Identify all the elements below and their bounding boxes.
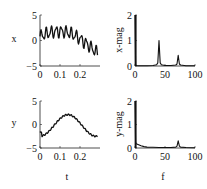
x-tick-label: 100 (188, 151, 203, 162)
y-time-panel: −50500.10.2 (26, 96, 100, 163)
y-spectrum-ylabel: y-mag (113, 111, 124, 137)
y-tick-label: 0 (32, 119, 37, 130)
x-time-panel: −50500.10.2 (26, 10, 100, 81)
y-tick-label: −5 (26, 143, 37, 154)
data-series (135, 15, 195, 66)
x-tick-label: 0.1 (54, 151, 67, 162)
x-tick-label: 0.1 (54, 69, 67, 80)
x-tick-label: 50 (160, 151, 170, 162)
y-tick-label: 2 (127, 10, 132, 21)
x-tick-label: 50 (160, 69, 170, 80)
y-tick-label: 5 (32, 10, 37, 21)
figure: −50500.10.2 012050100 −50500.10.2 012050… (0, 0, 207, 189)
x-time-ylabel: x (12, 33, 17, 44)
axes (135, 15, 195, 66)
y-tick-label: −5 (26, 61, 37, 72)
x-tick-label: 0.2 (74, 69, 87, 80)
y-tick-label: 0 (127, 61, 132, 72)
y-spectrum-xlabel: f (161, 171, 165, 182)
axes (40, 101, 100, 148)
y-tick-label: 0 (127, 143, 132, 154)
y-tick-label: 2 (127, 96, 132, 107)
x-tick-label: 0 (38, 69, 43, 80)
x-spectrum-ylabel: x-mag (113, 27, 124, 53)
x-tick-label: 0.2 (74, 151, 87, 162)
x-tick-label: 0 (38, 151, 43, 162)
y-time-ylabel: y (12, 117, 17, 128)
y-tick-label: 5 (32, 96, 37, 107)
y-tick-label: 0 (32, 35, 37, 46)
y-time-xlabel: t (66, 171, 69, 182)
y-tick-label: 1 (127, 119, 132, 130)
y-spectrum-panel: 012050100 (127, 96, 203, 163)
data-series (40, 26, 98, 55)
x-tick-label: 100 (188, 69, 203, 80)
y-tick-label: 1 (127, 35, 132, 46)
x-tick-label: 0 (133, 151, 138, 162)
data-series (40, 114, 98, 137)
x-spectrum-panel: 012050100 (127, 10, 203, 81)
x-tick-label: 0 (133, 69, 138, 80)
data-series (135, 101, 195, 148)
axes (135, 101, 195, 148)
